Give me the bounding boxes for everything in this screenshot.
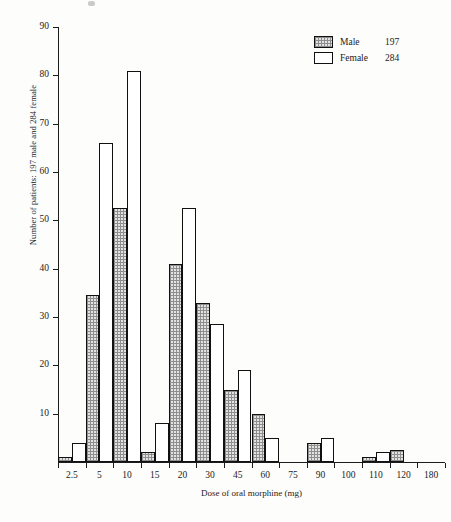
bar-male-30 (196, 303, 210, 463)
legend: Male 197 Female 284 (314, 34, 399, 66)
bar-male-20 (169, 264, 183, 462)
y-axis-title: Number of patients: 197 male and 284 fem… (28, 35, 38, 295)
x-tick-label: 110 (369, 471, 383, 481)
y-tick-mark (53, 27, 59, 28)
bar-female-45 (238, 370, 252, 462)
histogram-figure: Number of patients: 197 male and 284 fem… (0, 0, 451, 522)
x-tick-mark (252, 463, 253, 468)
x-tick-label: 120 (396, 471, 410, 481)
x-tick-mark (307, 463, 308, 468)
x-tick-label: 90 (316, 471, 326, 481)
legend-label-male: Male (340, 37, 385, 47)
y-tick-label: 80 (40, 71, 50, 81)
x-tick-mark (390, 463, 391, 468)
bar-female-15 (155, 423, 169, 462)
bar-male-45 (224, 390, 238, 463)
bar-female-90 (321, 438, 335, 462)
x-tick-label: 15 (150, 471, 160, 481)
x-tick-mark (445, 463, 446, 468)
bar-male-5 (86, 295, 100, 462)
y-tick-mark (53, 269, 59, 270)
x-tick-label: 20 (178, 471, 188, 481)
bar-female-20 (182, 208, 196, 462)
x-tick-label: 60 (261, 471, 271, 481)
y-tick-label: 70 (40, 119, 50, 129)
y-tick-mark (53, 172, 59, 173)
legend-count-male: 197 (385, 37, 399, 47)
x-tick-label: 75 (288, 471, 298, 481)
bar-female-60 (265, 438, 279, 462)
x-tick-mark (334, 463, 335, 468)
y-tick-label: 10 (40, 409, 50, 419)
x-tick-label: 5 (97, 471, 102, 481)
x-axis-title: Dose of oral morphine (mg) (58, 488, 445, 498)
y-tick-label: 60 (40, 167, 50, 177)
y-tick-mark (53, 220, 59, 221)
bar-female-5 (99, 143, 113, 462)
x-tick-label: 30 (205, 471, 215, 481)
bar-male-90 (307, 443, 321, 462)
x-tick-label: 2.5 (66, 471, 78, 481)
x-tick-label: 100 (341, 471, 355, 481)
x-tick-mark (86, 463, 87, 468)
y-axis-line (58, 27, 59, 463)
bar-male-60 (252, 414, 266, 462)
x-tick-label: 10 (122, 471, 132, 481)
bar-male-15 (141, 452, 155, 462)
bar-male-2.5 (58, 457, 72, 462)
x-tick-mark (196, 463, 197, 468)
y-tick-label: 40 (40, 264, 50, 274)
legend-item-female: Female 284 (314, 50, 399, 65)
y-tick-label: 20 (40, 361, 50, 371)
plot-area: 102030405060708090 2.5510152030456075901… (58, 27, 445, 463)
y-tick-mark (53, 317, 59, 318)
bar-female-110 (376, 452, 390, 462)
x-tick-mark (279, 463, 280, 468)
x-tick-mark (362, 463, 363, 468)
x-tick-mark (141, 463, 142, 468)
x-tick-label: 180 (424, 471, 438, 481)
bar-female-2.5 (72, 443, 86, 462)
legend-swatch-male-icon (314, 36, 333, 48)
bar-male-110 (362, 457, 376, 462)
x-tick-mark (58, 463, 59, 468)
bar-female-10 (127, 71, 141, 463)
y-tick-label: 50 (40, 216, 50, 226)
x-tick-mark (417, 463, 418, 468)
y-tick-mark (53, 124, 59, 125)
legend-swatch-female-icon (314, 52, 333, 64)
y-tick-mark (53, 365, 59, 366)
x-tick-mark (113, 463, 114, 468)
legend-count-female: 284 (385, 53, 399, 63)
bar-male-10 (113, 208, 127, 462)
bar-female-30 (210, 324, 224, 462)
y-tick-mark (53, 75, 59, 76)
x-tick-mark (224, 463, 225, 468)
legend-label-female: Female (340, 53, 385, 63)
y-tick-label: 30 (40, 312, 50, 322)
bar-male-120 (390, 450, 404, 462)
legend-item-male: Male 197 (314, 34, 399, 49)
y-tick-mark (53, 414, 59, 415)
y-tick-label: 90 (40, 22, 50, 32)
scan-artifact (88, 1, 95, 6)
x-tick-label: 45 (233, 471, 243, 481)
x-tick-mark (169, 463, 170, 468)
